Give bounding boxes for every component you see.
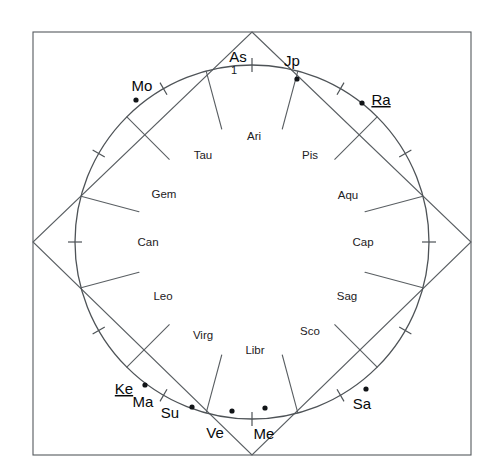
planet-dot-sun bbox=[189, 404, 194, 409]
planet-label-ketu: Ke bbox=[115, 380, 133, 397]
planet-dot-moon bbox=[133, 97, 138, 102]
sign-label-ari: Ari bbox=[247, 130, 261, 142]
house-number-1: 1 bbox=[231, 64, 237, 76]
sign-label-leo: Leo bbox=[153, 290, 172, 302]
planet-dot-venus bbox=[229, 408, 234, 413]
planet-label-saturn: Sa bbox=[353, 395, 372, 412]
natal-chart-canvas: AriTauGemCanLeoVirgLibrScoSagCapAquPis A… bbox=[0, 0, 504, 475]
planet-label-rahu: Ra bbox=[371, 91, 391, 108]
planet-dot-rahu bbox=[359, 100, 364, 105]
sign-label-pis: Pis bbox=[302, 149, 318, 161]
planet-label-jupiter: Jp bbox=[284, 52, 300, 69]
planet-label-sun: Su bbox=[161, 404, 179, 421]
sign-label-cap: Cap bbox=[352, 236, 373, 248]
house-numbers: 1 bbox=[231, 64, 237, 76]
planet-dot-jupiter bbox=[294, 76, 299, 81]
planet-dot-mercury bbox=[262, 405, 267, 410]
planet-dot-saturn bbox=[363, 386, 368, 391]
sign-label-tau: Tau bbox=[194, 149, 213, 161]
planet-label-venus: Ve bbox=[206, 424, 224, 441]
planet-label-moon: Mo bbox=[132, 77, 153, 94]
sign-label-gem: Gem bbox=[152, 188, 177, 200]
sign-label-aqu: Aqu bbox=[338, 189, 358, 201]
sign-label-libr: Libr bbox=[245, 344, 264, 356]
sign-label-can: Can bbox=[137, 236, 158, 248]
planet-label-mars: Ma bbox=[133, 393, 154, 410]
planet-label-mercury: Me bbox=[254, 425, 275, 442]
planet-label-ascendant: As bbox=[229, 48, 247, 65]
planet-dot-ketu bbox=[142, 382, 147, 387]
astrology-chart: AriTauGemCanLeoVirgLibrScoSagCapAquPis A… bbox=[0, 0, 504, 475]
sign-label-sag: Sag bbox=[337, 290, 357, 302]
sign-label-virg: Virg bbox=[193, 329, 213, 341]
sign-label-sco: Sco bbox=[300, 325, 320, 337]
